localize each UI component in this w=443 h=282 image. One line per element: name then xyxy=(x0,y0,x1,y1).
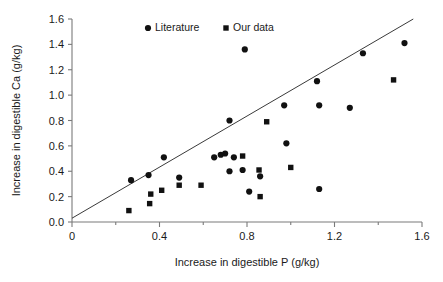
y-tick-label: 1.4 xyxy=(49,38,64,50)
legend-label: Our data xyxy=(233,21,274,33)
x-tick-label: 0.8 xyxy=(239,230,254,242)
x-tick-label: 0 xyxy=(69,230,75,242)
data-point-circle xyxy=(347,105,353,111)
legend-marker-square xyxy=(223,25,228,30)
data-point-circle xyxy=(231,154,237,160)
scatter-chart-figure: 0.00.20.40.60.81.01.21.41.600.40.81.21.6… xyxy=(0,0,443,282)
data-point-circle xyxy=(211,154,217,160)
data-point-circle xyxy=(226,117,232,123)
data-point-circle xyxy=(281,102,287,108)
data-point-square xyxy=(176,183,181,188)
data-point-circle xyxy=(242,46,248,52)
data-point-square xyxy=(256,167,261,172)
x-tick-label: 0.4 xyxy=(152,230,167,242)
data-point-circle xyxy=(176,174,182,180)
chart-legend: LiteratureOur data xyxy=(145,21,274,33)
x-axis-title: Increase in digestible P (g/kg) xyxy=(175,256,320,268)
legend-label: Literature xyxy=(155,21,200,33)
data-point-square xyxy=(391,77,396,82)
series-our-data xyxy=(126,77,396,213)
y-tick-label: 1.6 xyxy=(49,13,64,25)
y-tick-label: 0.8 xyxy=(49,115,64,127)
x-tick-label: 1.2 xyxy=(327,230,342,242)
data-point-circle xyxy=(316,186,322,192)
y-tick-label: 0.6 xyxy=(49,140,64,152)
data-point-circle xyxy=(222,150,228,156)
data-point-circle xyxy=(360,50,366,56)
axis-labels-layer: 0.00.20.40.60.81.01.21.41.600.40.81.21.6… xyxy=(10,13,430,268)
data-point-circle xyxy=(246,188,252,194)
y-tick-label: 0.4 xyxy=(49,165,64,177)
data-point-square xyxy=(288,165,293,170)
data-point-square xyxy=(159,188,164,193)
y-tick-label: 1.0 xyxy=(49,89,64,101)
data-point-square xyxy=(264,119,269,124)
data-point-circle xyxy=(401,40,407,46)
data-point-circle xyxy=(161,154,167,160)
data-point-circle xyxy=(145,172,151,178)
data-point-square xyxy=(148,191,153,196)
data-point-circle xyxy=(283,140,289,146)
y-tick-label: 1.2 xyxy=(49,64,64,76)
series-literature xyxy=(128,40,408,195)
data-point-circle xyxy=(226,168,232,174)
plot-svg: 0.00.20.40.60.81.01.21.41.600.40.81.21.6… xyxy=(0,0,443,282)
x-tick-label: 1.6 xyxy=(414,230,429,242)
data-point-circle xyxy=(128,177,134,183)
data-point-square xyxy=(126,208,131,213)
data-point-square xyxy=(198,183,203,188)
data-point-square xyxy=(240,153,245,158)
y-tick-label: 0.2 xyxy=(49,191,64,203)
data-point-circle xyxy=(316,102,322,108)
data-point-circle xyxy=(314,78,320,84)
data-points-layer xyxy=(126,40,407,213)
data-point-circle xyxy=(257,173,263,179)
data-point-square xyxy=(147,201,152,206)
data-point-circle xyxy=(240,167,246,173)
y-axis-title: Increase in digestible Ca (g/kg) xyxy=(10,45,22,197)
data-point-square xyxy=(257,194,262,199)
y-tick-label: 0.0 xyxy=(49,216,64,228)
legend-marker-circle xyxy=(145,25,151,31)
